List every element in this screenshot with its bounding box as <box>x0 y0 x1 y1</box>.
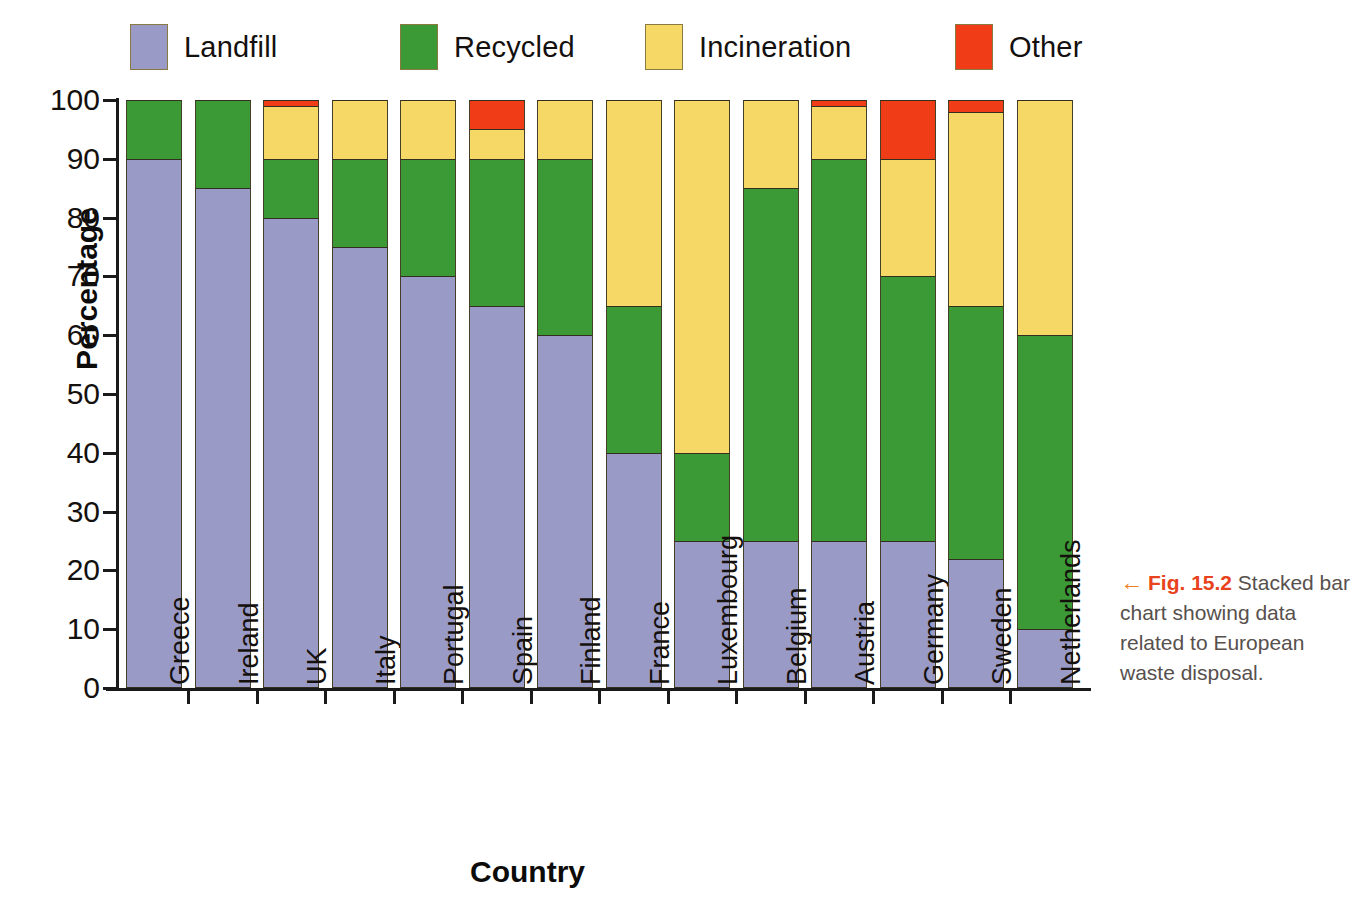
chart-legend: LandfillRecycledIncinerationOther <box>0 8 1100 86</box>
y-tick-label: 100 <box>50 83 100 117</box>
y-tick-label: 10 <box>67 612 100 646</box>
legend-label: Incineration <box>699 31 851 64</box>
bar-segment-incineration <box>811 106 867 159</box>
y-tick-mark <box>103 393 117 396</box>
bar-segment-recycled <box>811 159 867 541</box>
bar-segment-recycled <box>606 306 662 453</box>
bar-ireland[interactable] <box>195 100 251 688</box>
bar-segment-incineration <box>743 100 799 188</box>
left-arrow-icon: ← <box>1120 569 1143 595</box>
figure-caption: ←Fig. 15.2 Stacked bar chart showing dat… <box>1120 567 1365 688</box>
legend-label: Recycled <box>454 31 575 64</box>
bar-italy[interactable] <box>332 100 388 688</box>
x-axis-label-greece: Greece <box>165 596 196 685</box>
legend-item-incineration[interactable]: Incineration <box>645 8 851 86</box>
bar-segment-incineration <box>263 106 319 159</box>
y-tick-mark <box>103 334 117 337</box>
y-tick-label: 60 <box>67 318 100 352</box>
figure-container: LandfillRecycledIncinerationOther Percen… <box>0 0 1371 910</box>
bar-segment-incineration <box>948 112 1004 306</box>
x-tick-mark <box>941 689 944 704</box>
bar-spain[interactable] <box>469 100 525 688</box>
bar-segment-incineration <box>537 100 593 159</box>
bar-segment-incineration <box>400 100 456 159</box>
legend-swatch-incineration <box>645 24 683 70</box>
y-tick-label: 70 <box>67 259 100 293</box>
bar-segment-landfill <box>263 218 319 688</box>
bar-segment-incineration <box>332 100 388 159</box>
y-tick-mark <box>103 217 117 220</box>
x-axis-label-italy: Italy <box>371 635 402 685</box>
y-tick-mark <box>103 569 117 572</box>
x-axis-label-germany: Germany <box>919 574 950 685</box>
bar-segment-recycled <box>195 100 251 188</box>
x-tick-mark <box>598 689 601 704</box>
x-axis-label-finland: Finland <box>576 596 607 685</box>
y-tick-label: 40 <box>67 436 100 470</box>
x-tick-mark <box>667 689 670 704</box>
bar-segment-other <box>469 100 525 129</box>
x-axis-label-ireland: Ireland <box>234 602 265 685</box>
x-tick-mark <box>256 689 259 704</box>
bar-segment-incineration <box>1017 100 1073 335</box>
legend-swatch-recycled <box>400 24 438 70</box>
legend-swatch-other <box>955 24 993 70</box>
bar-segment-incineration <box>880 159 936 277</box>
x-tick-mark <box>530 689 533 704</box>
bar-segment-recycled <box>332 159 388 247</box>
y-tick-label: 50 <box>67 377 100 411</box>
bar-segment-recycled <box>400 159 456 277</box>
bar-france[interactable] <box>606 100 662 688</box>
bar-segment-incineration <box>674 100 730 453</box>
x-tick-mark <box>735 689 738 704</box>
x-axis-label-luxembourg: Luxembourg <box>713 535 744 685</box>
x-tick-mark <box>461 689 464 704</box>
x-tick-mark <box>804 689 807 704</box>
bar-segment-recycled <box>743 188 799 541</box>
x-tick-mark <box>187 689 190 704</box>
bar-segment-recycled <box>537 159 593 335</box>
x-axis-label-france: France <box>645 601 676 685</box>
y-tick-mark <box>103 99 117 102</box>
y-tick-label: 20 <box>67 553 100 587</box>
bar-segment-landfill <box>332 247 388 688</box>
bar-austria[interactable] <box>811 100 867 688</box>
x-axis-title: Country <box>470 855 585 889</box>
bar-segment-other <box>948 100 1004 112</box>
y-tick-label: 0 <box>83 671 100 705</box>
x-axis-label-spain: Spain <box>508 616 539 685</box>
y-tick-label: 80 <box>67 201 100 235</box>
x-tick-mark <box>872 689 875 704</box>
bar-segment-recycled <box>674 453 730 541</box>
y-tick-mark <box>103 452 117 455</box>
plot-area: 0102030405060708090100 GreeceIrelandUKIt… <box>118 100 1088 688</box>
legend-label: Landfill <box>184 31 278 64</box>
y-tick-label: 90 <box>67 142 100 176</box>
bar-segment-incineration <box>606 100 662 306</box>
y-tick-mark <box>103 158 117 161</box>
x-axis-label-netherlands: Netherlands <box>1056 539 1087 685</box>
y-tick-mark <box>103 628 117 631</box>
legend-item-landfill[interactable]: Landfill <box>130 8 278 86</box>
y-tick-mark <box>103 275 117 278</box>
y-tick-mark <box>103 687 117 690</box>
figure-number: Fig. 15.2 <box>1148 571 1232 594</box>
legend-item-recycled[interactable]: Recycled <box>400 8 575 86</box>
x-axis-label-belgium: Belgium <box>782 587 813 685</box>
bar-segment-recycled <box>263 159 319 218</box>
x-axis-label-portugal: Portugal <box>439 584 470 685</box>
legend-swatch-landfill <box>130 24 168 70</box>
bar-segment-recycled <box>469 159 525 306</box>
bar-segment-recycled <box>948 306 1004 559</box>
x-axis-label-sweden: Sweden <box>987 587 1018 685</box>
legend-item-other[interactable]: Other <box>955 8 1083 86</box>
bar-segment-incineration <box>469 129 525 158</box>
y-tick-label: 30 <box>67 495 100 529</box>
x-axis-label-uk: UK <box>302 647 333 685</box>
bar-segment-recycled <box>126 100 182 159</box>
bar-uk[interactable] <box>263 100 319 688</box>
y-tick-mark <box>103 511 117 514</box>
legend-label: Other <box>1009 31 1083 64</box>
bar-segment-other <box>880 100 936 159</box>
bar-segment-recycled <box>880 276 936 541</box>
